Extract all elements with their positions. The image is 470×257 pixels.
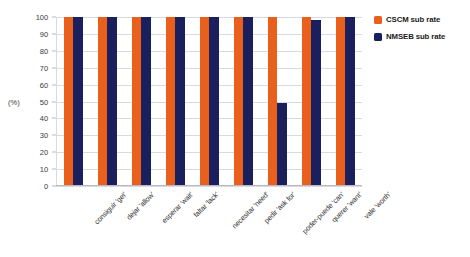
bar-group xyxy=(64,17,83,186)
y-axis-tick-label: 100 xyxy=(36,13,48,22)
bar-group xyxy=(200,17,219,186)
legend-swatch-icon xyxy=(374,16,382,24)
y-axis-tick-label: 50 xyxy=(40,97,48,106)
x-axis-tick-label: vale 'worth' xyxy=(362,190,393,221)
x-axis-labels: consiguir 'get'dejar 'allow'esperar 'wai… xyxy=(56,186,362,257)
legend-item: NMSEB sub rate xyxy=(374,31,470,42)
x-axis-tick-label: necesitar 'need' xyxy=(230,190,271,231)
x-axis-tick-label: consiguir 'get' xyxy=(92,190,128,226)
bars-layer xyxy=(56,17,362,186)
bar-chart: 0102030405060708090100(%) consiguir 'get… xyxy=(0,0,470,257)
legend-label: CSCM sub rate xyxy=(386,15,440,24)
y-axis-tick-label: 90 xyxy=(40,29,48,38)
y-axis-title: (%) xyxy=(8,97,20,106)
bar-group xyxy=(302,17,321,186)
y-axis-tick-label: 10 xyxy=(40,165,48,174)
bar-group xyxy=(268,17,287,186)
bar xyxy=(345,17,355,186)
bar xyxy=(268,17,278,186)
bar xyxy=(336,17,346,186)
plot-area xyxy=(56,17,362,186)
chart-legend: CSCM sub rateNMSEB sub rate xyxy=(374,14,470,48)
legend-label: NMSEB sub rate xyxy=(386,32,445,41)
y-axis-tick-label: 30 xyxy=(40,131,48,140)
bar-group xyxy=(98,17,117,186)
y-axis-tick-label: 70 xyxy=(40,63,48,72)
bar xyxy=(277,103,287,186)
bar xyxy=(64,17,74,186)
y-axis-tick-label: 20 xyxy=(40,148,48,157)
bar xyxy=(73,17,83,186)
y-axis-tick-label: 40 xyxy=(40,114,48,123)
bar xyxy=(107,17,117,186)
legend-item: CSCM sub rate xyxy=(374,14,470,25)
bar xyxy=(166,17,176,186)
bar-group xyxy=(132,17,151,186)
bar xyxy=(234,17,244,186)
y-axis-tick-label: 80 xyxy=(40,46,48,55)
bar xyxy=(311,20,321,186)
bar xyxy=(243,17,253,186)
bar xyxy=(209,17,219,186)
x-axis-tick-label: dejar 'allow' xyxy=(124,190,156,222)
bar-group xyxy=(166,17,185,186)
x-axis-tick-label: faltar 'lack' xyxy=(191,190,220,219)
bar xyxy=(200,17,210,186)
y-axis: 0102030405060708090100(%) xyxy=(0,0,56,203)
bar xyxy=(132,17,142,186)
x-axis-tick-label: esperar 'wait' xyxy=(160,190,195,225)
bar-group xyxy=(234,17,253,186)
bar xyxy=(98,17,108,186)
y-axis-tick-label: 60 xyxy=(40,80,48,89)
bar xyxy=(141,17,151,186)
bar xyxy=(175,17,185,186)
y-axis-tick-label: 0 xyxy=(44,182,48,191)
legend-swatch-icon xyxy=(374,33,382,41)
bar xyxy=(302,17,312,186)
bar-group xyxy=(336,17,355,186)
